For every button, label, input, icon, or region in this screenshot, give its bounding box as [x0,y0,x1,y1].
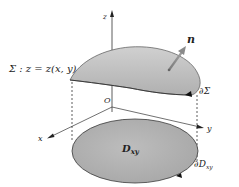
normal-vector-arrowhead [178,46,186,55]
surface-equation-label: Σ : z = z(x, y) [8,63,77,74]
normal-label: n [187,33,195,46]
region-boundary-label-main: ∂D [194,159,206,169]
normal-base-dot [168,69,171,72]
region-label-main: D [121,143,131,154]
origin-label: O [104,96,111,105]
z-axis-arrowhead [110,10,114,17]
surface-boundary-label: ∂Σ [199,86,211,96]
x-axis-arrowhead [47,134,55,139]
diagram-canvas: Σ : z = z(x, y) n ∂Σ O x y z Dxy ∂Dxy [0,0,239,187]
region-boundary-label: ∂Dxy [194,159,213,171]
region-boundary-label-sub: xy [206,163,213,171]
y-axis-label: y [206,124,212,133]
x-axis-label: x [38,134,43,143]
y-axis-arrowhead [197,125,205,129]
region-label-sub: xy [130,147,140,156]
z-axis-label: z [102,13,107,21]
